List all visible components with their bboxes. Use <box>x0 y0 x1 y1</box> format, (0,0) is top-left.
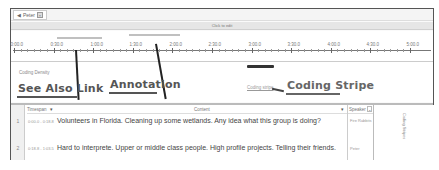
tick-mark <box>212 48 213 53</box>
tick-mark <box>199 49 200 52</box>
row-timespan: 0:18.8 - 1:03.5 <box>28 146 54 151</box>
tick-mark <box>285 49 286 52</box>
tick-mark <box>271 49 272 52</box>
header-label: Speaker <box>349 107 366 112</box>
tick-mark <box>14 48 15 53</box>
timeline[interactable]: 0:00.0 0:30.0 1:00.0 1:30.0 2:00.0 2:30.… <box>11 31 433 61</box>
tick-mark <box>331 48 332 53</box>
tick-mark <box>351 49 352 52</box>
audio-icon: ◀ <box>17 10 21 20</box>
tick-mark <box>337 49 338 52</box>
tick-label: 4:30.0 <box>366 42 379 47</box>
tick-mark <box>60 49 61 52</box>
tick-mark <box>179 49 180 52</box>
tick-mark <box>192 49 193 52</box>
see-also-bar[interactable] <box>129 34 180 36</box>
tick-label: 1:00.0 <box>90 42 103 47</box>
click-to-edit-bar[interactable]: Click to edit <box>11 22 433 30</box>
row-number: 2 <box>11 145 25 151</box>
tick-mark <box>397 49 398 52</box>
tick-mark <box>21 49 22 52</box>
callout-annotation: Annotation <box>110 78 181 91</box>
row-speaker: Peter <box>350 146 360 151</box>
tick-mark <box>205 49 206 52</box>
tick-mark <box>219 49 220 52</box>
tick-label: 2:30.0 <box>208 42 221 47</box>
tick-mark <box>113 49 114 52</box>
tick-mark <box>278 49 279 52</box>
row-content: Volunteers in Florida. Cleaning up some … <box>57 117 321 124</box>
callout-underline <box>17 96 77 98</box>
coding-stripes-panel: Coding Stripes <box>373 105 434 160</box>
coding-stripes-label: Coding Stripes <box>402 113 407 139</box>
tab-label: Peter <box>23 10 35 20</box>
tick-mark <box>80 49 81 52</box>
callout-underline <box>109 92 157 94</box>
tick-mark <box>34 49 35 52</box>
filter-icon[interactable]: ▾ <box>341 105 344 114</box>
tick-mark <box>225 49 226 52</box>
tick-mark <box>245 49 246 52</box>
annotation-bar[interactable] <box>57 37 102 39</box>
tick-label: 0:00.0 <box>10 42 23 47</box>
column-separator <box>347 105 348 160</box>
tick-mark <box>133 48 134 53</box>
row-speaker: Fire Rabbits <box>350 118 372 123</box>
tab-peter[interactable]: ◀ Peter × <box>13 10 47 20</box>
tab-bar: ◀ Peter × <box>11 9 433 21</box>
column-menu-button[interactable]: ⌄ <box>367 106 372 112</box>
tick-label: 3:30.0 <box>287 42 300 47</box>
tick-mark <box>298 49 299 52</box>
callout-underline <box>286 93 340 95</box>
filter-icon[interactable]: ▾ <box>50 105 53 114</box>
tick-label: 2:00.0 <box>169 42 182 47</box>
tick-mark <box>403 49 404 52</box>
tick-mark <box>159 49 160 52</box>
tick-label: 4:00.0 <box>327 42 340 47</box>
tick-mark <box>146 49 147 52</box>
tick-mark <box>100 49 101 52</box>
tick-mark <box>364 49 365 52</box>
tick-mark <box>67 49 68 52</box>
header-content[interactable]: Content ▾ <box>57 105 347 114</box>
tick-label: 1:30.0 <box>129 42 142 47</box>
tick-mark <box>120 49 121 52</box>
row-number: 1 <box>11 118 25 124</box>
tick-mark <box>410 48 411 53</box>
tick-mark <box>27 49 28 52</box>
coding-stripe-link[interactable]: Coding stripe <box>247 85 274 90</box>
tick-mark <box>47 49 48 52</box>
tick-mark <box>238 49 239 52</box>
tick-mark <box>126 49 127 52</box>
tick-mark <box>377 49 378 52</box>
coding-stripe-mark[interactable] <box>247 65 274 68</box>
tick-mark <box>172 48 173 53</box>
tick-mark <box>232 49 233 52</box>
tick-mark <box>40 49 41 52</box>
tick-mark <box>390 49 391 52</box>
header-timespan[interactable]: Timespan ▾ <box>27 105 57 114</box>
transcript-grid: Timespan ▾ Content ▾ Speaker ▾ ⌄ 1 0:00.… <box>11 103 433 160</box>
tick-mark <box>344 49 345 52</box>
callout-coding-stripe: Coding Stripe <box>287 79 374 92</box>
tick-mark <box>252 48 253 53</box>
tick-label: 3:00.0 <box>248 42 261 47</box>
tick-mark <box>384 49 385 52</box>
tick-mark <box>265 49 266 52</box>
tick-mark <box>139 49 140 52</box>
tick-label: 5:00.0 <box>406 42 419 47</box>
close-icon[interactable]: × <box>37 12 43 18</box>
row-content: Hard to interprete. Upper or middle clas… <box>57 144 336 151</box>
coding-density-label: Coding Density <box>19 70 50 75</box>
tick-mark <box>93 48 94 53</box>
header-label: Content <box>194 107 210 112</box>
tick-mark <box>166 49 167 52</box>
tick-mark <box>370 48 371 53</box>
tick-mark <box>54 48 55 53</box>
tick-mark <box>318 49 319 52</box>
tick-mark <box>357 49 358 52</box>
tick-label: 0:30.0 <box>50 42 63 47</box>
row-number-column <box>11 105 25 160</box>
tick-mark <box>311 49 312 52</box>
tick-mark <box>291 48 292 53</box>
